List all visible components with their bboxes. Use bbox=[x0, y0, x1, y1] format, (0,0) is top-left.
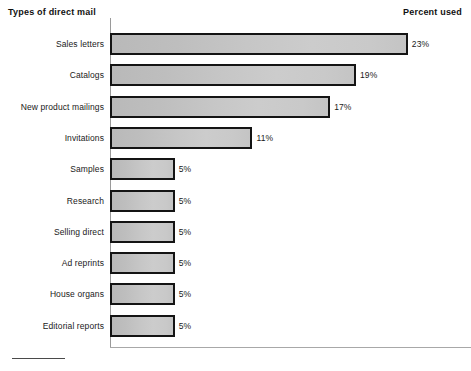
bar-row: Catalogs19% bbox=[0, 64, 471, 86]
bar bbox=[110, 283, 175, 305]
bar bbox=[110, 96, 330, 118]
bar-row: Selling direct5% bbox=[0, 221, 471, 243]
bar bbox=[110, 158, 175, 180]
bar-category-label: Catalogs bbox=[0, 64, 104, 86]
bar bbox=[110, 315, 175, 337]
bar-value-label: 19% bbox=[360, 64, 377, 86]
bar-value-label: 5% bbox=[179, 315, 192, 337]
bar-value-label: 5% bbox=[179, 252, 192, 274]
bar-row: Ad reprints5% bbox=[0, 252, 471, 274]
bar bbox=[110, 221, 175, 243]
chart-page: Types of direct mail Percent used Sales … bbox=[0, 0, 471, 371]
bar-plot-area: Sales letters23%Catalogs19%New product m… bbox=[0, 0, 471, 371]
bar-row: Editorial reports5% bbox=[0, 315, 471, 337]
bar-row: Samples5% bbox=[0, 158, 471, 180]
bar-value-label: 5% bbox=[179, 158, 192, 180]
bar bbox=[110, 190, 175, 212]
bar-row: Sales letters23% bbox=[0, 33, 471, 55]
bar-value-label: 17% bbox=[334, 96, 351, 118]
bar-row: Invitations11% bbox=[0, 127, 471, 149]
bar-row: Research5% bbox=[0, 190, 471, 212]
bar-category-label: Editorial reports bbox=[0, 315, 104, 337]
bar bbox=[110, 64, 356, 86]
bar-category-label: House organs bbox=[0, 283, 104, 305]
bar-value-label: 5% bbox=[179, 190, 192, 212]
bar-category-label: New product mailings bbox=[0, 96, 104, 118]
bar-category-label: Sales letters bbox=[0, 33, 104, 55]
bar bbox=[110, 33, 408, 55]
bar bbox=[110, 127, 252, 149]
bar-value-label: 5% bbox=[179, 283, 192, 305]
bar-category-label: Invitations bbox=[0, 127, 104, 149]
bar-category-label: Research bbox=[0, 190, 104, 212]
footnote-rule bbox=[12, 358, 65, 359]
bar-value-label: 11% bbox=[256, 127, 273, 149]
bar-value-label: 5% bbox=[179, 221, 192, 243]
bar-category-label: Ad reprints bbox=[0, 252, 104, 274]
bar-row: House organs5% bbox=[0, 283, 471, 305]
bar-category-label: Selling direct bbox=[0, 221, 104, 243]
bar bbox=[110, 252, 175, 274]
bar-value-label: 23% bbox=[412, 33, 429, 55]
bar-row: New product mailings17% bbox=[0, 96, 471, 118]
bar-category-label: Samples bbox=[0, 158, 104, 180]
